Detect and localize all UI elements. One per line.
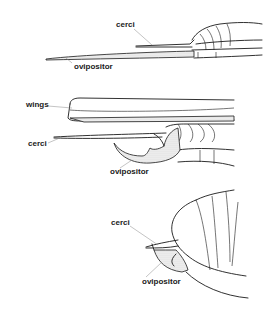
label-ovipositor-top: ovipositor	[74, 63, 113, 71]
label-ovipositor-middle: ovipositor	[110, 168, 149, 176]
label-ovipositor-bottom: ovipositor	[142, 278, 181, 286]
middle-panel-drawing	[48, 98, 234, 168]
insect-ovipositor-diagram: cerci ovipositor wings cerci ovipositor …	[0, 0, 274, 322]
label-wings-middle: wings	[26, 101, 49, 109]
label-cerci-middle: cerci	[28, 140, 47, 148]
label-cerci-bottom: cerci	[111, 219, 130, 227]
top-panel-drawing	[46, 23, 262, 64]
label-cerci-top: cerci	[116, 21, 135, 29]
